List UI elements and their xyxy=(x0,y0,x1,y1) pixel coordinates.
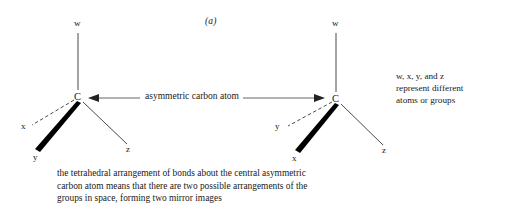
arrow-right-head xyxy=(314,94,325,102)
side-note-line-1: w, x, y, and z xyxy=(396,71,463,83)
asymmetric-carbon-annotation: asymmetric carbon atom xyxy=(145,91,239,101)
right-atom-label-y: y xyxy=(275,122,280,131)
side-note: w, x, y, and z represent different atoms… xyxy=(396,71,463,106)
side-note-line-2: represent different xyxy=(396,83,463,95)
right-atom-label-x: x xyxy=(292,154,297,163)
left-bond-z-plain xyxy=(83,102,127,144)
right-center-atom-label: C xyxy=(332,94,339,105)
left-atom-label-y: y xyxy=(33,153,38,162)
right-bond-z-plain xyxy=(341,104,383,145)
figure-label: (a) xyxy=(205,16,217,26)
figure-canvas: (a) w C x y z w C y x z asymmetric carbo… xyxy=(0,0,506,207)
side-note-line-3: atoms or groups xyxy=(396,95,463,107)
left-atom-label-z: z xyxy=(126,145,130,154)
caption-line-1: the tetrahedral arrangement of bonds abo… xyxy=(57,167,307,180)
left-bond-y-wedge xyxy=(35,101,81,152)
right-bond-x-wedge xyxy=(295,103,339,153)
left-atom-label-w: w xyxy=(74,19,81,28)
caption-line-3: groups in space, forming two mirror imag… xyxy=(57,192,307,205)
figure-caption: the tetrahedral arrangement of bonds abo… xyxy=(57,167,307,205)
right-atom-label-z: z xyxy=(382,146,386,155)
right-atom-label-w: w xyxy=(332,19,339,28)
left-center-atom-label: C xyxy=(74,92,81,103)
left-atom-label-x: x xyxy=(21,122,26,131)
arrow-left-head xyxy=(88,94,99,102)
caption-line-2: carbon atom means that there are two pos… xyxy=(57,180,307,193)
right-bond-y-dashed xyxy=(288,102,332,126)
